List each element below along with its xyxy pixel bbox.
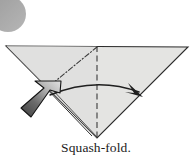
diagram-canvas [0, 0, 192, 161]
paper-shading-left [6, 46, 97, 138]
origami-figure: Squash-fold. [0, 0, 192, 161]
figure-caption: Squash-fold. [0, 140, 192, 156]
push-arrow [21, 81, 61, 117]
page-corner-circle [0, 0, 26, 32]
